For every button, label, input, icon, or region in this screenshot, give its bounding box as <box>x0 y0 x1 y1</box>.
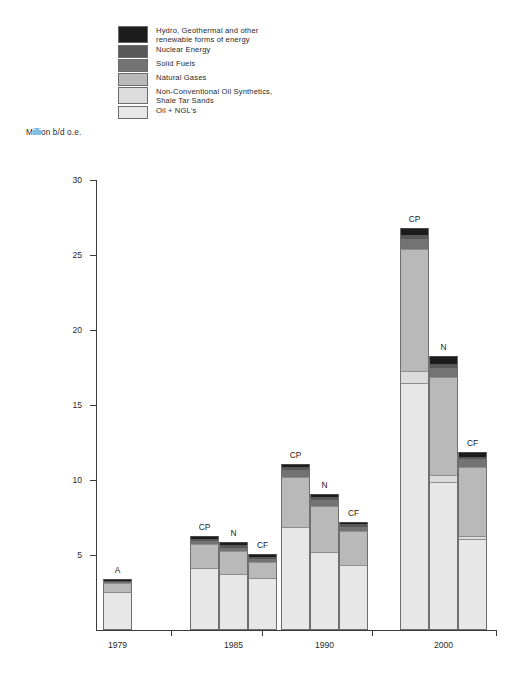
bar-segment-solid_fuels <box>429 368 458 377</box>
x-axis-label-1990: 1990 <box>295 640 355 650</box>
bar-segment-nuclear <box>103 581 132 582</box>
bar-1979-A[interactable] <box>103 579 132 630</box>
bar-segment-oil_ngl <box>339 565 368 630</box>
bar-label-1979-A: A <box>98 565 138 575</box>
y-axis-tick <box>90 255 96 256</box>
y-axis-line <box>96 180 97 630</box>
x-axis-label-1985: 1985 <box>204 640 264 650</box>
bar-1985-N[interactable] <box>219 542 248 631</box>
bar-label-2000-CF: CF <box>453 438 493 448</box>
y-axis-label: 20 <box>42 325 82 335</box>
bar-segment-oil_ngl <box>458 539 487 630</box>
bar-label-1990-N: N <box>305 480 345 490</box>
bar-segment-nuclear <box>400 235 429 239</box>
bar-segment-hydro <box>458 452 487 457</box>
bar-segment-non_conventional <box>429 475 458 483</box>
bar-segment-oil_ngl <box>190 568 219 630</box>
bar-segment-hydro <box>248 554 277 557</box>
bar-1985-CF[interactable] <box>248 554 277 631</box>
bar-segment-natural_gases <box>248 562 277 578</box>
bar-segment-natural_gases <box>458 467 487 536</box>
bar-label-1985-N: N <box>214 528 254 538</box>
bar-segment-natural_gases <box>219 551 248 574</box>
bar-segment-solid_fuels <box>339 527 368 532</box>
bar-segment-oil_ngl <box>310 552 339 630</box>
y-axis-label: 5 <box>42 550 82 560</box>
bar-label-1990-CP: CP <box>276 450 316 460</box>
bar-segment-natural_gases <box>190 544 219 568</box>
bar-2000-CP[interactable] <box>400 228 429 630</box>
bar-segment-hydro <box>310 494 339 497</box>
bar-segment-hydro <box>400 228 429 235</box>
bar-segment-nuclear <box>248 557 277 559</box>
bar-segment-hydro <box>281 464 310 468</box>
bar-segment-nuclear <box>429 364 458 368</box>
bar-segment-oil_ngl <box>219 574 248 630</box>
bar-segment-oil_ngl <box>400 383 429 630</box>
bar-label-1985-CF: CF <box>243 540 283 550</box>
bar-segment-hydro <box>339 522 368 524</box>
y-axis-label: 10 <box>42 475 82 485</box>
bar-segment-solid_fuels <box>400 239 429 250</box>
bar-segment-oil_ngl <box>281 527 310 630</box>
bar-segment-solid_fuels <box>281 470 310 477</box>
bar-segment-solid_fuels <box>103 582 132 583</box>
bar-segment-non_conventional <box>458 536 487 540</box>
bar-segment-nuclear <box>458 457 487 459</box>
y-axis-label: 30 <box>42 175 82 185</box>
x-axis-line <box>96 630 496 631</box>
y-axis-tick <box>90 180 96 181</box>
bar-1985-CP[interactable] <box>190 536 219 631</box>
bar-segment-hydro <box>429 356 458 364</box>
bar-segment-natural_gases <box>103 583 132 592</box>
bar-segment-non_conventional <box>400 371 429 384</box>
bar-segment-oil_ngl <box>248 578 277 631</box>
bar-label-2000-CP: CP <box>395 214 435 224</box>
bar-segment-nuclear <box>190 539 219 541</box>
x-axis-tick <box>171 630 172 636</box>
bar-segment-solid_fuels <box>310 500 339 506</box>
bar-segment-nuclear <box>310 497 339 500</box>
x-axis-tick <box>262 630 263 636</box>
bar-1990-CF[interactable] <box>339 522 368 630</box>
bar-segment-oil_ngl <box>103 592 132 630</box>
bar-segment-nuclear <box>281 467 310 470</box>
x-axis-label-1979: 1979 <box>88 640 148 650</box>
x-axis-tick <box>372 630 373 636</box>
y-axis-tick <box>90 330 96 331</box>
bar-2000-CF[interactable] <box>458 452 487 631</box>
bar-segment-natural_gases <box>429 377 458 475</box>
y-axis-label: 15 <box>42 400 82 410</box>
y-axis-tick <box>90 555 96 556</box>
stacked-bar-chart: 51015202530 1979198519902000 ACPNCFCPNCF… <box>0 0 514 681</box>
bar-label-1990-CF: CF <box>334 508 374 518</box>
y-axis-label: 25 <box>42 250 82 260</box>
bar-segment-natural_gases <box>339 531 368 565</box>
bar-2000-N[interactable] <box>429 356 458 631</box>
bar-segment-solid_fuels <box>248 559 277 562</box>
bar-label-2000-N: N <box>424 342 464 352</box>
bar-segment-solid_fuels <box>458 459 487 467</box>
bar-segment-nuclear <box>339 524 368 526</box>
x-axis-tick <box>496 630 497 636</box>
bar-segment-oil_ngl <box>429 482 458 630</box>
y-axis-tick <box>90 405 96 406</box>
y-axis-tick <box>90 480 96 481</box>
bar-segment-hydro <box>103 579 132 581</box>
bar-segment-natural_gases <box>400 249 429 371</box>
bar-segment-solid_fuels <box>190 541 219 544</box>
x-axis-label-2000: 2000 <box>414 640 474 650</box>
